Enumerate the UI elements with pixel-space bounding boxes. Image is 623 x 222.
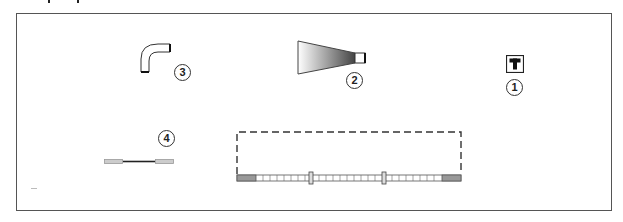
segmented-bar-part bbox=[234, 130, 464, 185]
tee-fitting-part bbox=[506, 55, 524, 73]
cropped-text-fragment bbox=[77, 0, 79, 3]
clip-marker bbox=[309, 172, 313, 184]
callout-3: 3 bbox=[174, 64, 191, 81]
clip-marker bbox=[382, 172, 386, 184]
callout-2: 2 bbox=[346, 72, 363, 89]
tee-box-icon bbox=[506, 55, 524, 73]
callout-4: 4 bbox=[158, 130, 175, 147]
cable-icon bbox=[104, 158, 174, 166]
elbow-pipe-icon bbox=[138, 41, 172, 73]
tapered-nozzle-icon bbox=[297, 40, 367, 76]
faint-mark bbox=[31, 188, 37, 189]
callout-1: 1 bbox=[506, 79, 523, 96]
segmented-bar-icon bbox=[234, 130, 464, 185]
elbow-pipe-part bbox=[138, 41, 172, 73]
tapered-nozzle-part bbox=[297, 40, 367, 76]
cropped-text-fragment bbox=[48, 0, 50, 3]
connector-cable-part bbox=[104, 158, 174, 166]
